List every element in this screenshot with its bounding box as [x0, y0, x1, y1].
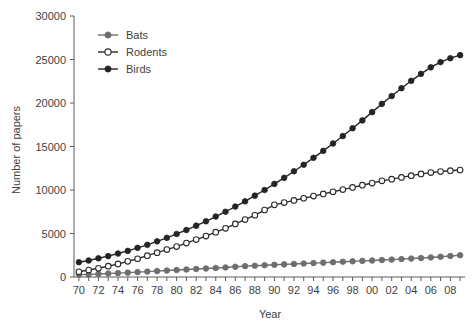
data-point: [428, 170, 434, 176]
data-point: [154, 268, 160, 274]
data-point: [369, 109, 375, 115]
data-point: [379, 178, 385, 184]
data-point: [281, 262, 287, 268]
data-point: [301, 261, 307, 267]
data-point: [330, 259, 336, 265]
x-tick-label: 82: [190, 284, 202, 296]
data-point: [360, 258, 366, 264]
data-point: [457, 167, 463, 173]
data-point: [291, 168, 297, 174]
data-point: [448, 168, 454, 174]
data-point: [340, 259, 346, 265]
x-tick-label: 02: [386, 284, 398, 296]
data-point: [223, 225, 229, 231]
data-point: [193, 266, 199, 272]
data-point: [379, 257, 385, 263]
data-point: [438, 59, 444, 65]
x-axis-title: Year: [259, 308, 282, 320]
x-tick-label: 90: [268, 284, 280, 296]
data-point: [164, 268, 170, 274]
data-point: [164, 247, 170, 253]
data-point: [154, 250, 160, 256]
data-point: [272, 202, 278, 208]
data-point: [438, 169, 444, 175]
chart-container: 050001000015000200002500030000 707274767…: [0, 0, 474, 328]
x-tick-label: 96: [327, 284, 339, 296]
legend-marker-open-circle: [105, 49, 111, 55]
data-point: [369, 180, 375, 186]
x-tick-label: 08: [444, 284, 456, 296]
data-point: [389, 257, 395, 263]
data-point: [135, 245, 141, 251]
data-point: [203, 266, 209, 272]
data-point: [457, 252, 463, 258]
x-tick-label: 94: [307, 284, 319, 296]
data-point: [262, 262, 268, 268]
data-point: [457, 52, 463, 58]
data-point: [242, 217, 248, 223]
data-point: [360, 118, 366, 124]
data-point: [301, 162, 307, 168]
data-point: [418, 71, 424, 77]
data-point: [86, 258, 92, 264]
data-point: [115, 251, 121, 257]
data-point: [232, 264, 238, 270]
data-point: [399, 175, 405, 181]
data-point: [428, 255, 434, 261]
x-tick-label: 88: [249, 284, 261, 296]
data-point: [213, 229, 219, 235]
data-point: [360, 182, 366, 188]
data-point: [232, 221, 238, 227]
data-point: [242, 263, 248, 269]
data-point: [408, 256, 414, 262]
data-point: [272, 262, 278, 268]
y-tick-label: 30000: [35, 10, 66, 22]
data-point: [96, 266, 102, 272]
data-point: [448, 55, 454, 61]
legend-label: Rodents: [126, 46, 167, 58]
data-point: [105, 263, 111, 269]
data-point: [213, 265, 219, 271]
x-tick-label: 06: [425, 284, 437, 296]
data-point: [408, 173, 414, 179]
y-tick-label: 0: [60, 271, 66, 283]
data-point: [252, 263, 258, 269]
data-point: [96, 255, 102, 261]
x-tick-label: 72: [92, 284, 104, 296]
data-point: [76, 259, 82, 265]
data-point: [184, 227, 190, 233]
data-point: [340, 133, 346, 139]
data-point: [232, 204, 238, 210]
data-point: [389, 176, 395, 182]
data-point: [438, 254, 444, 260]
data-point: [96, 271, 102, 277]
data-point: [262, 187, 268, 193]
data-point: [418, 255, 424, 261]
x-tick-label: 86: [229, 284, 241, 296]
data-point: [193, 237, 199, 243]
x-tick-label: 84: [210, 284, 222, 296]
data-point: [193, 223, 199, 229]
data-point: [399, 256, 405, 262]
x-tick-label: 70: [73, 284, 85, 296]
data-point: [105, 253, 111, 259]
data-point: [350, 185, 356, 191]
data-point: [281, 200, 287, 206]
plot-background: [0, 0, 474, 328]
data-point: [330, 189, 336, 195]
data-point: [408, 78, 414, 84]
data-point: [125, 259, 131, 265]
y-axis-title: Number of papers: [10, 105, 22, 194]
data-point: [145, 242, 151, 248]
data-point: [262, 207, 268, 213]
data-point: [115, 270, 121, 276]
data-point: [174, 244, 180, 250]
data-point: [115, 261, 121, 267]
y-tick-label: 10000: [35, 184, 66, 196]
y-tick-label: 20000: [35, 97, 66, 109]
data-point: [350, 259, 356, 265]
x-tick-label: 76: [131, 284, 143, 296]
data-point: [184, 240, 190, 246]
x-tick-label: 98: [346, 284, 358, 296]
y-tick-label: 15000: [35, 141, 66, 153]
